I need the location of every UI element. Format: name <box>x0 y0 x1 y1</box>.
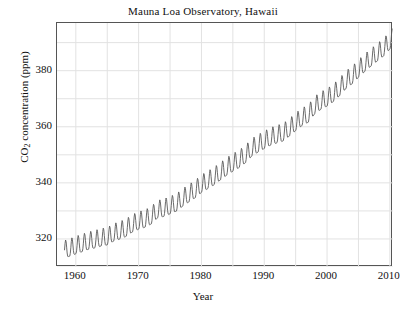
chart-title: Mauna Loa Observatory, Hawaii <box>0 5 406 17</box>
co2-series-line <box>57 23 393 267</box>
y-tick-label: 320 <box>6 232 52 243</box>
x-tick-label: 1970 <box>115 270 161 281</box>
x-axis-title: Year <box>0 290 406 302</box>
y-axis-tick-labels: 320340360380 <box>0 22 52 266</box>
x-tick-label: 1990 <box>240 270 286 281</box>
x-axis-tick-labels: 196019701980199020002010 <box>56 270 392 284</box>
plot-area <box>56 22 392 266</box>
y-tick-label: 380 <box>6 64 52 75</box>
x-tick-label: 1980 <box>177 270 223 281</box>
x-tick-label: 2010 <box>366 270 406 281</box>
y-tick-label: 360 <box>6 120 52 131</box>
y-tick-label: 340 <box>6 176 52 187</box>
x-tick-label: 2000 <box>303 270 349 281</box>
x-tick-label: 1960 <box>52 270 98 281</box>
chart-figure: Mauna Loa Observatory, Hawaii CO2 concen… <box>0 0 406 313</box>
